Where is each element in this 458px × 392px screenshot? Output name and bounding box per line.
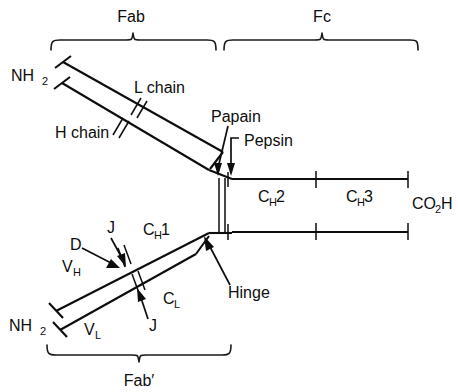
domain-label-cl: C L	[163, 290, 180, 310]
svg-text:CO: CO	[412, 195, 436, 212]
fc-upper-chain	[228, 171, 408, 188]
n-terminus-lower-label: NH 2	[9, 317, 46, 337]
upper-light-chain	[55, 56, 223, 169]
antibody-diagram-canvas: Fab Fc Fab′ NH 2 NH 2 CO 2 H L chain H c…	[0, 0, 458, 392]
domain-label-ch1: C H 1	[143, 221, 170, 241]
fc-label: Fc	[313, 8, 331, 25]
d-segment-label: D	[70, 236, 82, 253]
domain-label-ch3: C H 3	[346, 188, 373, 208]
l-chain-label: L chain	[134, 79, 185, 96]
hinge-arrow	[204, 236, 230, 285]
svg-text:C: C	[346, 188, 358, 205]
papain-label: Papain	[211, 108, 261, 125]
svg-text:V: V	[62, 258, 73, 275]
c-terminus-label: CO 2 H	[412, 195, 453, 215]
j-segment-light-label: J	[149, 317, 157, 334]
svg-text:L: L	[174, 298, 180, 310]
j-segment-heavy-label: J	[107, 219, 115, 236]
domain-label-vh: V H	[62, 258, 81, 278]
svg-text:C: C	[258, 188, 270, 205]
hinge-label: Hinge	[228, 284, 270, 301]
d-arrow	[82, 248, 120, 268]
domain-label-ch2: C H 2	[258, 188, 285, 208]
hinge-disulfide-bonds	[219, 178, 225, 233]
h-chain-label: H chain	[55, 124, 109, 141]
n-terminus-upper-label: NH 2	[11, 67, 48, 87]
fab-prime-label: Fab′	[124, 372, 155, 389]
svg-text:V: V	[84, 321, 95, 338]
antibody-structure-figure: Fab Fc Fab′ NH 2 NH 2 CO 2 H L chain H c…	[0, 0, 458, 392]
svg-text:H: H	[73, 266, 81, 278]
svg-text:NH: NH	[9, 317, 32, 334]
svg-text:C: C	[143, 221, 155, 238]
j-light-arrow	[137, 288, 148, 319]
fab-prime-brace	[47, 345, 231, 362]
pepsin-label: Pepsin	[244, 132, 293, 149]
pepsin-arrow	[227, 138, 239, 176]
fc-brace	[224, 33, 418, 50]
svg-text:C: C	[163, 290, 175, 307]
fab-brace	[51, 33, 216, 50]
svg-text:NH: NH	[11, 67, 34, 84]
svg-text:3: 3	[364, 188, 373, 205]
svg-text:H: H	[441, 195, 453, 212]
svg-text:2: 2	[42, 75, 48, 87]
svg-text:L: L	[95, 329, 101, 341]
svg-text:2: 2	[40, 325, 46, 337]
svg-text:2: 2	[276, 188, 285, 205]
domain-label-vl: V L	[84, 321, 101, 341]
fc-lower-chain	[228, 223, 408, 240]
svg-text:1: 1	[161, 221, 170, 238]
fab-label: Fab	[117, 8, 145, 25]
